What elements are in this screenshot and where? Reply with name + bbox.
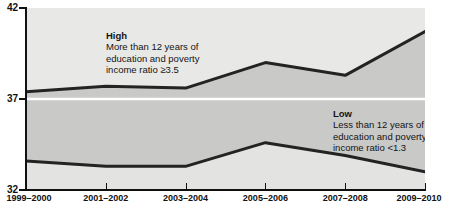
y-axis-tick-37 [19, 98, 26, 100]
annotation-low: Low Less than 12 years of education and … [333, 108, 425, 154]
y-axis-tick-42 [19, 7, 26, 9]
x-axis-tick-label-1: 2001–2002 [77, 193, 135, 203]
annotation-low-line-1: Less than 12 years of [333, 119, 425, 130]
x-axis-tick-4 [345, 183, 346, 190]
annotation-high-line-2: education and poverty [106, 53, 199, 64]
x-axis-tick-label-0: 1999–2000 [0, 193, 58, 203]
chart-root: High More than 12 years of education and… [0, 0, 449, 215]
annotation-low-title: Low [333, 108, 425, 119]
x-axis-tick-label-5: 2009–2010 [390, 193, 448, 203]
x-axis-tick-2 [186, 183, 187, 190]
x-axis-tick-5 [425, 183, 426, 190]
annotation-high: High More than 12 years of education and… [106, 30, 199, 76]
annotation-low-line-2: education and poverty [333, 131, 425, 142]
plot-area: High More than 12 years of education and… [26, 8, 425, 190]
annotation-high-title: High [106, 30, 199, 41]
x-axis-line [25, 189, 426, 191]
x-axis-tick-0 [26, 183, 27, 190]
x-axis-tick-3 [265, 183, 266, 190]
x-axis-tick-label-4: 2007–2008 [316, 193, 374, 203]
chart-svg [26, 8, 425, 190]
x-axis-tick-label-3: 2005–2006 [236, 193, 294, 203]
y-axis-tick-label-37: 37 [1, 94, 18, 104]
annotation-high-line-3: income ratio ≥3.5 [106, 64, 199, 75]
y-axis-tick-32 [19, 189, 26, 191]
x-axis-tick-1 [106, 183, 107, 190]
annotation-low-line-3: income ratio <1.3 [333, 142, 425, 153]
annotation-high-line-1: More than 12 years of [106, 41, 199, 52]
x-axis-tick-label-2: 2003–2004 [157, 193, 215, 203]
y-axis-tick-label-42: 42 [1, 3, 18, 13]
